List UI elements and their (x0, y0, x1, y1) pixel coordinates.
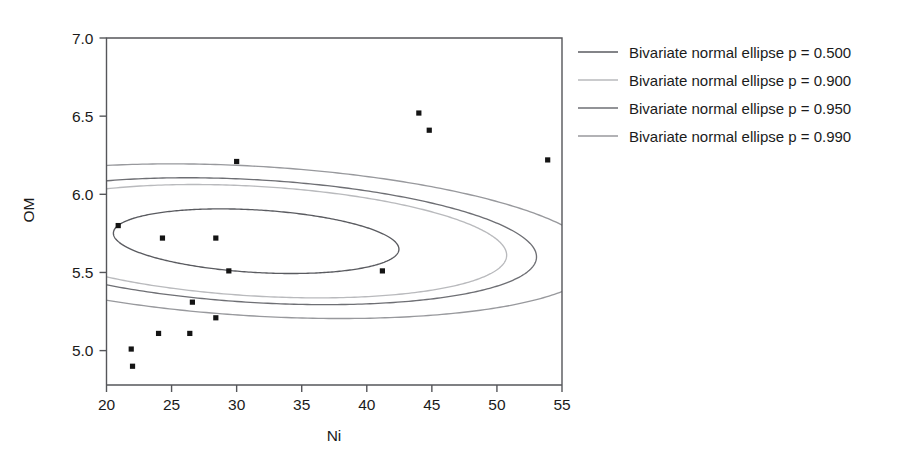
y-tick-label: 7.0 (72, 30, 94, 47)
x-tick-label: 50 (488, 396, 506, 413)
x-axis-title: Ni (327, 427, 342, 444)
y-tick-label: 5.5 (72, 264, 94, 281)
data-point (545, 157, 550, 162)
y-tick-label: 6.5 (72, 108, 94, 125)
x-tick-label: 55 (553, 396, 570, 413)
data-point (116, 223, 121, 228)
legend: Bivariate normal ellipse p = 0.500Bivari… (578, 44, 851, 145)
data-point-layer (116, 110, 551, 368)
plot-canvas: 2025303540455055 5.05.56.06.57.0 Ni OM B… (0, 0, 915, 462)
data-point (190, 300, 195, 305)
data-point (156, 331, 161, 336)
x-tick-label: 25 (163, 396, 180, 413)
data-point (130, 364, 135, 369)
x-tick-label: 20 (98, 396, 116, 413)
y-tick-label: 6.0 (72, 186, 94, 203)
y-axis-ticks: 5.05.56.06.57.0 (72, 30, 107, 360)
scatter-plot-figure: 2025303540455055 5.05.56.06.57.0 Ni OM B… (0, 0, 915, 462)
data-point (187, 331, 192, 336)
data-point (427, 128, 432, 133)
data-point (416, 110, 421, 115)
data-point (234, 159, 239, 164)
legend-label: Bivariate normal ellipse p = 0.900 (629, 72, 851, 89)
legend-label: Bivariate normal ellipse p = 0.500 (629, 44, 851, 61)
ellipse-p-0-5 (113, 209, 399, 274)
data-point (160, 235, 165, 240)
legend-label: Bivariate normal ellipse p = 0.990 (629, 128, 851, 145)
data-point (213, 235, 218, 240)
x-axis-ticks: 2025303540455055 (98, 385, 571, 413)
x-tick-label: 40 (358, 396, 376, 413)
data-point (380, 268, 385, 273)
x-tick-label: 45 (423, 396, 440, 413)
legend-label: Bivariate normal ellipse p = 0.950 (629, 100, 851, 117)
data-point (213, 315, 218, 320)
x-tick-label: 35 (293, 396, 310, 413)
x-tick-label: 30 (228, 396, 246, 413)
data-point (129, 346, 134, 351)
y-tick-label: 5.0 (72, 342, 94, 359)
data-point (226, 268, 231, 273)
y-axis-title: OM (20, 198, 37, 223)
